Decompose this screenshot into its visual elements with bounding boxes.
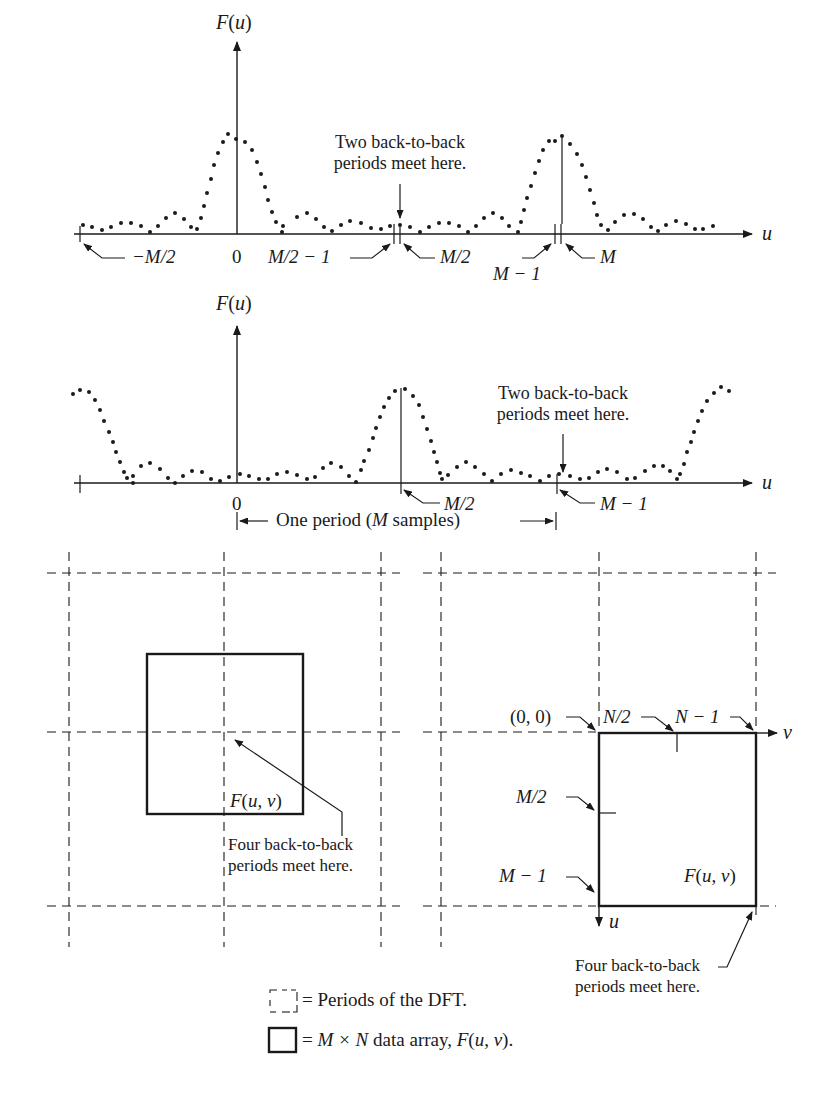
right-annotation-line2: periods meet here. <box>555 976 720 997</box>
plot1-tick-neg-half: −M/2 <box>132 247 175 268</box>
left-annotation: Four back-to-back periods meet here. <box>228 834 353 876</box>
plot2-annotation-line2: periods meet here. <box>478 404 648 425</box>
plot1-tick-m: M <box>600 247 616 268</box>
right-n-minus-one-label: N − 1 <box>675 707 720 728</box>
plot2-tick-m-minus-one: M − 1 <box>600 494 648 515</box>
plot2 <box>74 326 752 530</box>
plot2-x-label: u <box>762 471 772 493</box>
left-grid-periods <box>47 552 400 947</box>
right-annotation: Four back-to-back periods meet here. <box>555 955 720 997</box>
plot2-annotation-line1: Two back-to-back <box>478 383 648 404</box>
right-m-minus-one-label: M − 1 <box>499 866 547 887</box>
right-array-label: F(u, v) <box>684 866 736 887</box>
plot2-tick-zero: 0 <box>232 494 242 515</box>
right-u-axis-label: u <box>609 910 619 932</box>
legend-solid-swatch <box>269 1028 296 1052</box>
right-origin-label: (0, 0) <box>510 707 551 728</box>
left-annotation-line1: Four back-to-back <box>228 834 353 855</box>
legend-solid-prefix: = <box>302 1029 317 1050</box>
plot1-annotation: Two back-to-back periods meet here. <box>320 132 480 174</box>
plot1-annotation-line2: periods meet here. <box>320 153 480 174</box>
left-array-label: F(u, v) <box>230 791 282 812</box>
legend-solid-end: . <box>508 1029 513 1050</box>
plot1-tick-half: M/2 <box>440 247 471 268</box>
right-annotation-line1: Four back-to-back <box>555 955 720 976</box>
plot1-tick-half-minus-one: M/2 − 1 <box>268 247 330 268</box>
legend-dashed-swatch <box>270 990 297 1012</box>
right-data-array <box>566 717 777 967</box>
plot1-tick-zero: 0 <box>232 247 242 268</box>
legend-solid-text: data array, <box>368 1029 456 1050</box>
left-annotation-line2: periods meet here. <box>228 855 353 876</box>
plot1-tick-m-minus-one: M − 1 <box>493 264 541 285</box>
plot1-y-label: F(u) <box>216 11 252 33</box>
right-m-half-label: M/2 <box>516 787 547 808</box>
legend-dashed-label: = Periods of the DFT. <box>302 990 467 1011</box>
right-n-half-label: N/2 <box>603 707 630 728</box>
plot2-y-label: F(u) <box>216 292 252 314</box>
plot1-x-label: u <box>762 222 772 244</box>
legend-solid-label: = M × N data array, F(u, v). <box>302 1030 513 1051</box>
left-annotation-arrow <box>235 740 342 836</box>
plot2-period-label: One period (M samples) <box>276 510 460 531</box>
legend-solid-math: M × N <box>317 1029 368 1050</box>
right-v-axis-label: v <box>783 721 792 743</box>
plot2-annotation: Two back-to-back periods meet here. <box>478 383 648 425</box>
plot1-annotation-line1: Two back-to-back <box>320 132 480 153</box>
